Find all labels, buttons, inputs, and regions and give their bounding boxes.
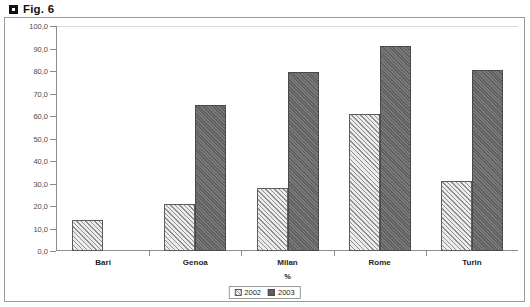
- y-axis-tick-label: 30,0: [33, 179, 48, 188]
- x-axis-category-label: Rome: [334, 258, 426, 267]
- figure-title-row: Fig. 6: [9, 3, 54, 15]
- y-axis-tick-label: 100,0: [29, 22, 48, 31]
- y-axis-tick: [50, 184, 56, 185]
- bar-group: [426, 26, 518, 251]
- y-axis-tick-label: 50,0: [33, 134, 48, 143]
- y-axis-tick-label: 90,0: [33, 44, 48, 53]
- x-axis-tick: [149, 251, 150, 256]
- bar-group: [241, 26, 333, 251]
- x-axis-category-label: Genoa: [149, 258, 241, 267]
- y-axis-labels: 0,010,020,030,040,050,060,070,080,090,01…: [5, 18, 48, 301]
- legend-label: 2003: [278, 288, 295, 297]
- legend-label: 2002: [244, 288, 261, 297]
- y-axis-tick-label: 40,0: [33, 157, 48, 166]
- y-axis-tick: [50, 139, 56, 140]
- bar-genoa-2002: [164, 204, 195, 251]
- x-axis-tick: [334, 251, 335, 256]
- y-axis-tick: [50, 206, 56, 207]
- y-axis-tick: [50, 229, 56, 230]
- legend-item-2003[interactable]: 2003: [268, 288, 295, 297]
- bar-group: [57, 26, 149, 251]
- bar-group: [334, 26, 426, 251]
- y-axis-tick: [50, 26, 56, 27]
- y-axis-tick: [50, 71, 56, 72]
- x-axis-category-label: Milan: [241, 258, 333, 267]
- y-axis-tick: [50, 251, 56, 252]
- x-axis-title: %: [57, 272, 518, 281]
- bar-group: [149, 26, 241, 251]
- bar-groups: [57, 26, 518, 251]
- bar-turin-2003: [472, 70, 503, 251]
- x-axis-category-label: Turin: [426, 258, 518, 267]
- square-bullet-icon: [9, 5, 18, 14]
- page-title: Fig. 6: [23, 3, 54, 15]
- bar-bari-2002: [72, 220, 103, 252]
- y-axis-tick: [50, 94, 56, 95]
- y-axis-tick: [50, 161, 56, 162]
- bar-milan-2003: [288, 72, 319, 251]
- figure-container: Fig. 6 0,010,020,030,040,050,060,070,080…: [0, 0, 530, 307]
- y-axis-tick-label: 10,0: [33, 224, 48, 233]
- y-axis-tick-label: 0,0: [38, 247, 48, 256]
- chart-frame: 0,010,020,030,040,050,060,070,080,090,01…: [4, 17, 525, 302]
- bar-milan-2002: [257, 188, 288, 251]
- x-axis-tick: [426, 251, 427, 256]
- y-axis-tick-label: 20,0: [33, 202, 48, 211]
- legend-swatch-icon: [234, 289, 241, 296]
- y-axis-tick-label: 60,0: [33, 112, 48, 121]
- bar-rome-2003: [380, 46, 411, 251]
- bar-rome-2002: [349, 114, 380, 251]
- y-axis-tick-label: 80,0: [33, 67, 48, 76]
- x-axis-category-labels: BariGenoaMilanRomeTurin: [57, 258, 518, 267]
- chart-legend: 20022003: [228, 286, 300, 299]
- x-axis-tick: [241, 251, 242, 256]
- bar-genoa-2003: [195, 105, 226, 251]
- y-axis-tick: [50, 116, 56, 117]
- bar-turin-2002: [441, 181, 472, 251]
- legend-swatch-icon: [268, 289, 275, 296]
- y-axis-tick: [50, 49, 56, 50]
- legend-item-2002[interactable]: 2002: [234, 288, 261, 297]
- x-axis-category-label: Bari: [57, 258, 149, 267]
- y-axis-tick-label: 70,0: [33, 89, 48, 98]
